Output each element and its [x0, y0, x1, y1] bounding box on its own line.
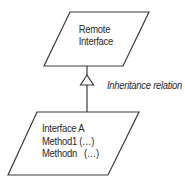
interface-a-title: Interface A — [42, 122, 99, 135]
remote-interface-label: Remote Interface — [79, 23, 110, 47]
inheritance-arrowhead-icon — [81, 75, 94, 85]
inheritance-relation-label: Inheritance relation — [107, 79, 182, 91]
interface-a-label: Interface A Method1 (…) Methodn (…) — [42, 122, 99, 160]
interface-a-method-1: Method1 (…) — [42, 135, 99, 148]
remote-interface-line-1: Remote — [79, 23, 110, 35]
diagram-canvas: Remote Interface Inheritance relation In… — [0, 0, 185, 185]
remote-interface-line-2: Interface — [79, 35, 110, 47]
interface-a-method-n: Methodn (…) — [42, 147, 99, 160]
